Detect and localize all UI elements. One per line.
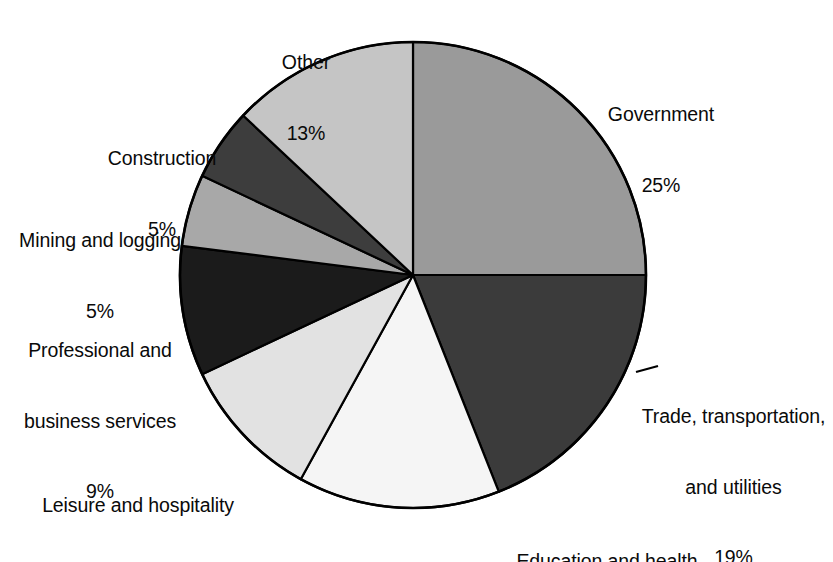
slice-label-professional-name-line2: business services	[6, 410, 194, 434]
slice-label-trade-name-line1: Trade, transportation,	[634, 405, 833, 429]
slice-label-government-value: 25%	[578, 174, 744, 198]
slice-label-construction-name: Construction	[82, 147, 242, 171]
slice-label-trade-name-line2: and utilities	[634, 476, 833, 500]
slice-label-trade-transportation-and-utilities: Trade, transportation, and utilities 19%	[634, 358, 833, 562]
slice-label-government-name: Government	[578, 103, 744, 127]
pie-chart-figure: Other 13% Construction 5% Mining and log…	[0, 0, 833, 562]
slice-label-other: Other 13%	[246, 4, 366, 192]
slice-label-trade-value: 19%	[634, 546, 833, 562]
slice-label-other-value: 13%	[246, 122, 366, 146]
slice-label-other-name: Other	[246, 51, 366, 75]
slice-label-professional-name-line1: Professional and	[6, 339, 194, 363]
slice-label-leisure-name: Leisure and hospitality	[22, 494, 254, 518]
slice-label-government: Government 25%	[578, 56, 744, 244]
slice-label-mining-name: Mining and logging	[2, 229, 198, 253]
slice-label-leisure-and-hospitality: Leisure and hospitality 10%	[22, 447, 254, 562]
